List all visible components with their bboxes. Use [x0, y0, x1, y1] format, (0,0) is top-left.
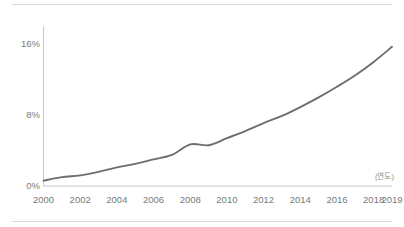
- chart-axes: [44, 26, 393, 186]
- x-tick-label: 2019: [381, 195, 402, 205]
- x-tick-label: 2016: [326, 195, 347, 205]
- x-tick-label: 2014: [290, 195, 311, 205]
- y-tick-label: 8%: [6, 110, 40, 120]
- x-tick-label: 2004: [106, 195, 127, 205]
- x-tick-label: 2012: [253, 195, 274, 205]
- y-axis-tick-labels: 0%8%16%: [0, 0, 40, 227]
- x-tick-label: 2006: [143, 195, 164, 205]
- x-tick-label: 2000: [33, 195, 54, 205]
- x-axis-unit-note: (연도): [360, 172, 394, 181]
- data-line: [44, 47, 393, 181]
- x-tick-label: 2010: [216, 195, 237, 205]
- y-tick-label: 0%: [6, 181, 40, 191]
- y-tick-label: 16%: [6, 39, 40, 49]
- chart-figure: 0%8%16% 20002002200420062008201020122014…: [0, 0, 404, 227]
- x-tick-label: 2002: [70, 195, 91, 205]
- chart-series-layer: [44, 47, 393, 181]
- line-chart-plot: [0, 0, 404, 227]
- x-tick-label: 2008: [180, 195, 201, 205]
